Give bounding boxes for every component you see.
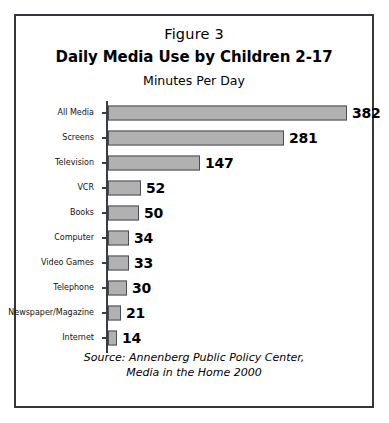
source-line-2: Media in the Home 2000 bbox=[16, 365, 372, 380]
axis-tick bbox=[102, 312, 106, 314]
bar-value-label: 21 bbox=[126, 305, 145, 320]
bar-category-label: Computer bbox=[54, 233, 94, 243]
bar-row: Television147 bbox=[16, 150, 372, 175]
bar bbox=[108, 130, 284, 145]
source-note: Source: Annenberg Public Policy Center, … bbox=[16, 350, 372, 380]
bar-chart-plot-area: All Media382Screens281Television147VCR52… bbox=[16, 100, 372, 356]
bar-row: All Media382 bbox=[16, 100, 372, 125]
axis-tick bbox=[102, 112, 106, 114]
bar-value-label: 147 bbox=[205, 155, 234, 170]
bar bbox=[108, 105, 347, 120]
bar-category-label: Video Games bbox=[41, 258, 94, 268]
bar-category-label: VCR bbox=[77, 183, 94, 193]
bar bbox=[108, 305, 121, 320]
bar bbox=[108, 155, 200, 170]
figure-title: Daily Media Use by Children 2-17 bbox=[16, 46, 372, 68]
bar-row: Telephone30 bbox=[16, 275, 372, 300]
bar-value-label: 382 bbox=[352, 105, 381, 120]
bar bbox=[108, 330, 117, 345]
bar-value-label: 30 bbox=[132, 280, 151, 295]
bar bbox=[108, 255, 129, 270]
bar-category-label: Screens bbox=[62, 133, 94, 143]
bar-category-label: Internet bbox=[62, 333, 94, 343]
bar bbox=[108, 280, 127, 295]
axis-tick bbox=[102, 212, 106, 214]
bar-row: Newspaper/Magazine21 bbox=[16, 300, 372, 325]
bar-category-label: All Media bbox=[58, 108, 95, 118]
figure-subtitle: Minutes Per Day bbox=[16, 71, 372, 91]
bar bbox=[108, 230, 129, 245]
bar-value-label: 50 bbox=[144, 205, 163, 220]
title-block: Figure 3 Daily Media Use by Children 2-1… bbox=[16, 24, 372, 91]
bar-row: Internet14 bbox=[16, 325, 372, 350]
bar-value-label: 34 bbox=[134, 230, 153, 245]
bar-category-label: Television bbox=[55, 158, 94, 168]
axis-tick bbox=[102, 337, 106, 339]
axis-tick bbox=[102, 287, 106, 289]
bar-value-label: 52 bbox=[146, 180, 165, 195]
bar-row: Books50 bbox=[16, 200, 372, 225]
bar-value-label: 33 bbox=[134, 255, 153, 270]
bar bbox=[108, 205, 139, 220]
bar-row: VCR52 bbox=[16, 175, 372, 200]
figure-frame: Figure 3 Daily Media Use by Children 2-1… bbox=[14, 14, 374, 408]
bar-value-label: 281 bbox=[289, 130, 318, 145]
axis-tick bbox=[102, 137, 106, 139]
axis-tick bbox=[102, 262, 106, 264]
source-line-1: Source: Annenberg Public Policy Center, bbox=[16, 350, 372, 365]
bar bbox=[108, 180, 141, 195]
bar-value-label: 14 bbox=[122, 330, 141, 345]
axis-tick bbox=[102, 237, 106, 239]
bar-row: Video Games33 bbox=[16, 250, 372, 275]
axis-tick bbox=[102, 187, 106, 189]
bar-row: Computer34 bbox=[16, 225, 372, 250]
bar-row: Screens281 bbox=[16, 125, 372, 150]
bar-category-label: Newspaper/Magazine bbox=[8, 308, 94, 318]
bar-category-label: Telephone bbox=[53, 283, 94, 293]
axis-tick bbox=[102, 162, 106, 164]
figure-label: Figure 3 bbox=[16, 24, 372, 44]
bar-category-label: Books bbox=[70, 208, 94, 218]
